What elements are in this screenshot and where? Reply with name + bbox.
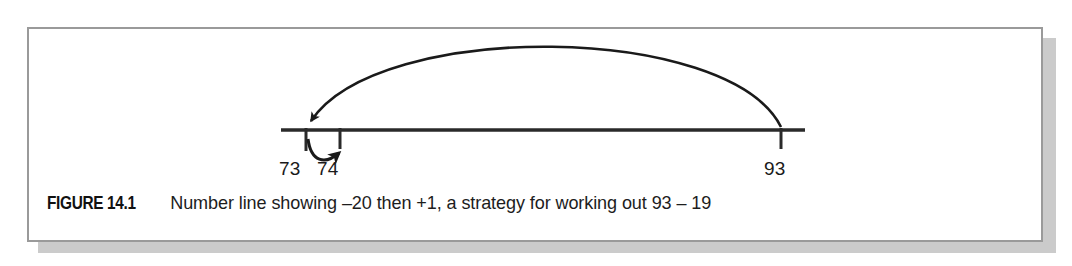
number-line-svg <box>29 29 1045 189</box>
axis-label-73: 73 <box>279 158 301 180</box>
figure-frame: 73 74 93 FIGURE 14.1 Number line showing… <box>27 27 1043 242</box>
arc-plus-1 <box>308 139 339 160</box>
figure-caption-text: Number line showing –20 then +1, a strat… <box>170 192 711 214</box>
figure-caption: FIGURE 14.1 Number line showing –20 then… <box>41 192 1031 214</box>
arc-minus-20 <box>311 47 781 127</box>
axis-label-74: 74 <box>317 158 339 180</box>
figure-number-label: FIGURE 14.1 <box>47 193 136 214</box>
figure-page: 73 74 93 FIGURE 14.1 Number line showing… <box>0 0 1072 266</box>
number-line-diagram: 73 74 93 <box>29 29 1045 189</box>
axis-label-93: 93 <box>764 158 786 180</box>
